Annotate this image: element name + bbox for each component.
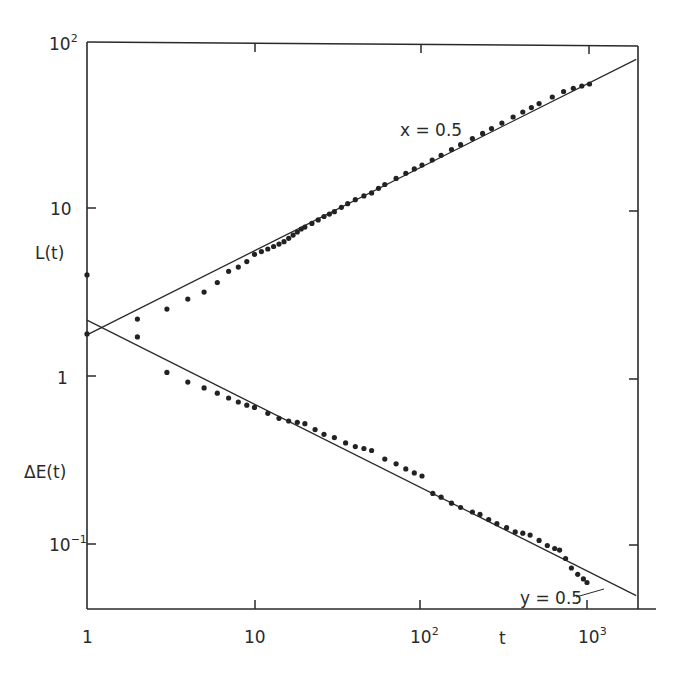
data-point [430, 157, 435, 162]
data-point [513, 529, 518, 534]
data-point [332, 209, 337, 214]
data-point [537, 101, 542, 106]
data-point [276, 416, 281, 421]
data-point [202, 385, 207, 390]
x-tick-label-1: 1 [82, 627, 93, 647]
data-point [276, 242, 281, 247]
data-point [185, 297, 190, 302]
data-point [439, 153, 444, 158]
data-point [295, 420, 300, 425]
data-point [419, 163, 424, 168]
data-point [480, 131, 485, 136]
data-point [185, 380, 190, 385]
data-point [552, 546, 557, 551]
data-point [439, 495, 444, 500]
data-point [236, 265, 241, 270]
y-tick-label-100: 102 [49, 32, 78, 54]
data-point [569, 565, 574, 570]
data-point [510, 114, 515, 119]
data-point [135, 334, 140, 339]
plot-frame [87, 42, 656, 609]
data-point [458, 505, 463, 510]
data-point [286, 236, 291, 241]
data-point [226, 395, 231, 400]
data-point [403, 171, 408, 176]
data-point [252, 252, 257, 257]
data-point [550, 94, 555, 99]
log-log-chart: 102 10 1 10−1 1 10 102 103 t L(t) ΔE(t) … [0, 0, 674, 673]
axis-ticks [87, 43, 638, 609]
data-point [226, 269, 231, 274]
data-point [84, 331, 89, 336]
x-axis-label: t [499, 628, 506, 648]
data-point [470, 509, 475, 514]
data-point [489, 126, 494, 131]
data-point [557, 548, 562, 553]
data-point [327, 212, 332, 217]
data-point [563, 556, 568, 561]
data-point [252, 405, 257, 410]
data-point [382, 182, 387, 187]
data-point [470, 136, 475, 141]
data-point [477, 512, 482, 517]
data-point [202, 290, 207, 295]
data-point [579, 83, 584, 88]
y-tick-label-1: 1 [57, 368, 68, 388]
data-point [286, 418, 291, 423]
x-tick-label-100: 102 [410, 625, 439, 647]
data-point [520, 531, 525, 536]
data-point [244, 403, 249, 408]
data-point [394, 176, 399, 181]
data-point [265, 246, 270, 251]
data-point [537, 538, 542, 543]
fit-line-deltaE [87, 320, 636, 595]
data-point [499, 121, 504, 126]
data-point [520, 109, 525, 114]
data-point [528, 533, 533, 538]
data-point [321, 214, 326, 219]
data-point [353, 444, 358, 449]
data-point [302, 225, 307, 230]
data-point [244, 259, 249, 264]
data-point [394, 461, 399, 466]
data-point [215, 391, 220, 396]
data-point [504, 525, 509, 530]
data-point [376, 186, 381, 191]
data-point [449, 501, 454, 506]
data-point [403, 466, 408, 471]
data-point [291, 233, 296, 238]
data-point [571, 86, 576, 91]
data-point [84, 272, 89, 277]
data-point [529, 105, 534, 110]
data-point [584, 580, 589, 585]
data-point [561, 89, 566, 94]
data-point [313, 427, 318, 432]
data-point [361, 446, 366, 451]
data-point [575, 572, 580, 577]
data-point [321, 432, 326, 437]
data-point [265, 411, 270, 416]
data-point [281, 239, 286, 244]
data-point [259, 249, 264, 254]
data-point [430, 491, 435, 496]
y-axis-label-lower: ΔE(t) [24, 462, 66, 482]
data-point [215, 280, 220, 285]
data-point [343, 440, 348, 445]
data-point [353, 197, 358, 202]
data-point [316, 217, 321, 222]
data-point [412, 166, 417, 171]
data-point [369, 190, 374, 195]
y-tick-label-0.1: 10−1 [49, 533, 87, 555]
data-point [345, 201, 350, 206]
data-point [486, 517, 491, 522]
data-point [236, 399, 241, 404]
data-point [164, 307, 169, 312]
x-tick-label-10: 10 [244, 627, 266, 647]
data-point [382, 457, 387, 462]
data-point [587, 81, 592, 86]
x-tick-label-1000: 103 [578, 625, 607, 647]
series-L-points [84, 81, 592, 321]
data-point [412, 470, 417, 475]
fit-label-x: x = 0.5 [400, 120, 462, 140]
data-point [332, 435, 337, 440]
